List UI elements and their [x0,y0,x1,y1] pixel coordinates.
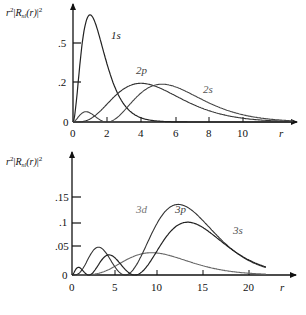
svg-text:4: 4 [138,127,144,139]
svg-text:20: 20 [243,281,255,293]
label-3s: 3s [232,224,243,236]
bottom-y-axis-label: r2|Rnl(r)|2 [6,155,43,168]
curve-3d [72,253,266,275]
label-1s: 1s [111,29,121,41]
label-2s: 2s [203,83,213,95]
top-y-tick-02: .2 [58,76,66,88]
top-y-axis-label: r2|Rnl(r)|2 [6,6,43,19]
bottom-x-axis-label: r [280,281,285,293]
top-x-axis-label: r [279,127,284,139]
label-3d: 3d [135,203,148,215]
top-y-tick-0: 0 [63,116,69,128]
svg-text:2: 2 [104,127,110,139]
top-y-tick-05: .5 [58,37,67,49]
svg-text:5: 5 [112,281,118,293]
top-chart: r2|Rnl(r)|2 0 .2 .5 0 2 4 6 8 10 r 1s [6,4,297,139]
svg-text:6: 6 [173,127,179,139]
radial-probability-figure: r2|Rnl(r)|2 0 .2 .5 0 2 4 6 8 10 r 1s [0,0,306,315]
label-2p: 2p [136,64,148,76]
curve-3p [72,204,266,275]
label-3p: 3p [174,203,187,215]
svg-text:15: 15 [197,281,209,293]
svg-text:10: 10 [151,281,163,293]
bottom-chart: r2|Rnl(r)|2 0 .05 .1 .15 0 5 10 15 20 r [6,152,296,293]
svg-text:0: 0 [70,127,76,139]
svg-text:10: 10 [237,127,249,139]
svg-text:.05: .05 [55,240,69,252]
curve-2p [73,83,293,122]
svg-text:.15: .15 [55,191,69,203]
svg-text:8: 8 [206,127,212,139]
curve-2s [73,84,293,122]
svg-text:.1: .1 [59,216,67,228]
svg-text:0: 0 [62,269,68,281]
svg-text:0: 0 [69,281,75,293]
